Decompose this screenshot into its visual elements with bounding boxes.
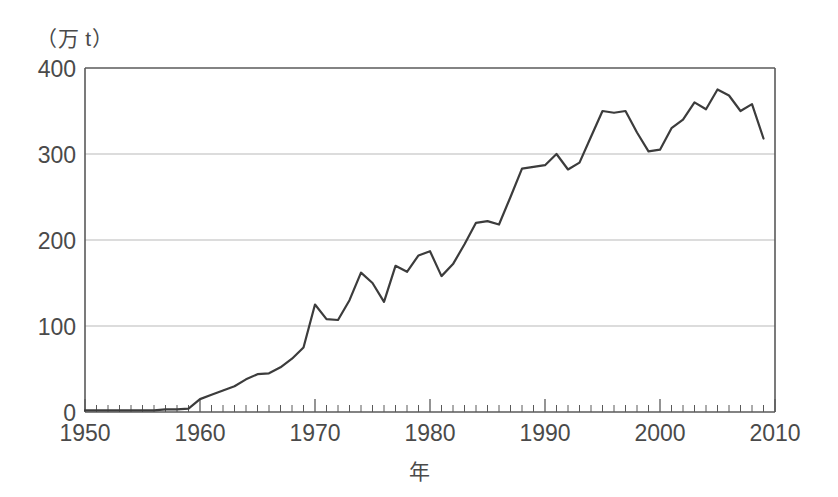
plot-canvas [0,0,838,497]
gridlines [85,154,775,326]
line-chart: （万 t） 400 300 200 100 0 1950 1960 1970 1… [0,0,838,497]
data-series-line [85,90,764,411]
